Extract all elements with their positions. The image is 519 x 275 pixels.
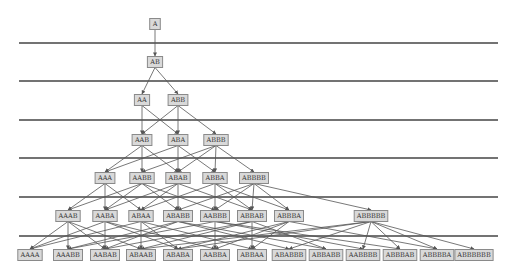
node-abb: ABB [168,95,188,106]
edge-arrow [142,146,178,173]
edge-arrow [215,222,400,250]
node-label: AAABB [55,251,80,259]
node-a: A [150,19,161,30]
node-abba: ABBA [203,173,227,184]
node-label: ABBBAB [385,251,415,259]
edge-arrow [371,222,437,250]
node-aaa: AAA [95,173,115,184]
node-label: AB [149,58,160,66]
nodes: AABAAABBAABABAABBBAAAAABBABABABBAABBBBAA… [18,19,493,261]
node-aaaa: AAAA [18,250,42,261]
node-ababa: ABABA [164,250,193,261]
edge-arrow [252,222,326,250]
node-aaba: AABA [93,211,117,222]
edge-arrow [142,146,216,173]
node-aaabb: AAABB [54,250,83,261]
node-label: ABBBA [276,212,301,220]
node-abbbba: ABBBBA [420,250,454,261]
node-label: ABAB [168,174,188,182]
node-ababbb: ABABBB [272,250,306,261]
node-label: AABB [132,174,152,182]
node-label: ABBBBBB [456,251,491,259]
node-label: ABBBBB [356,212,386,220]
node-aabba: AABBA [201,250,230,261]
node-label: ABA [170,136,185,144]
node-label: AAAB [58,212,78,220]
node-aba: ABA [168,135,188,146]
node-aab: AAB [132,135,152,146]
node-label: ABBAB [239,212,264,220]
node-aaab: AAAB [56,211,80,222]
node-aabb: AABB [130,173,154,184]
node-label: ABABBB [274,251,304,259]
node-label: AABA [95,212,115,220]
edge-arrow [30,222,68,250]
node-abbabb: ABBABB [309,250,343,261]
node-label: ABABA [165,251,190,259]
node-label: ABBBBA [422,251,452,259]
node-label: AAB [134,136,149,144]
node-label: ABBA [205,174,225,182]
node-aabbb: AABBB [201,211,230,222]
node-label: ABBB [205,136,225,144]
edge-arrow [68,222,141,250]
node-abbba: ABBBA [275,211,304,222]
node-aabbbb: AABBBB [346,250,380,261]
node-abaa: ABAA [129,211,153,222]
edge-arrow [289,222,371,250]
edge-arrow [289,222,437,250]
node-label: ABBBB [241,174,266,182]
node-aabab: AABAB [91,250,120,261]
node-abbbbb: ABBBBB [354,211,388,222]
node-abbbab: ABBBAB [383,250,417,261]
node-label: ABAA [131,212,151,220]
node-abaab: ABAAB [127,250,156,261]
node-abbbb: ABBBB [240,173,269,184]
edge-arrow [215,146,216,173]
node-label: AAA [97,174,112,182]
node-label: AABBB [202,212,227,220]
node-ab: AB [147,57,162,68]
node-abbaa: ABBAA [238,250,267,261]
node-label: AABBA [202,251,227,259]
node-label: AABAB [92,251,117,259]
edge-arrow [141,222,371,250]
edge-arrow [105,146,178,173]
node-abbbbbb: ABBBBBB [455,250,493,261]
node-label: A [152,20,158,28]
node-label: AAAA [20,251,40,259]
node-label: ABB [170,96,185,104]
node-abbab: ABBAB [238,211,267,222]
edge-arrow [68,222,215,250]
level-separators [19,43,498,236]
node-aa: AA [134,95,149,106]
node-label: ABBABB [311,251,341,259]
edge-arrow [105,146,142,173]
edge-arrow [371,222,474,250]
edge-arrow [30,222,105,250]
node-label: AA [136,96,147,104]
node-label: ABBAA [239,251,264,259]
edge-arrow [216,146,254,173]
node-label: ABAAB [128,251,153,259]
node-abbb: ABBB [204,135,228,146]
node-abab: ABAB [166,173,190,184]
node-ababb: ABABB [164,211,193,222]
node-label: AABBBB [348,251,378,259]
node-label: ABABB [165,212,190,220]
lattice-diagram: AABAAABBAABABAABBBAAAAABBABABABBAABBBBAA… [0,0,519,275]
